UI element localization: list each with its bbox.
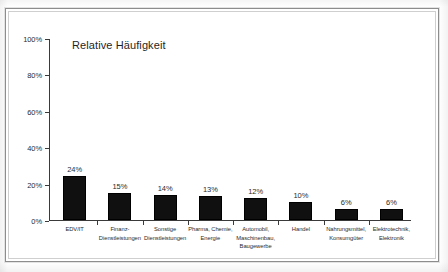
category-label-line: Elektrotechnik, bbox=[369, 225, 414, 234]
bar[interactable] bbox=[289, 202, 312, 220]
y-axis-tick-label: 60% bbox=[27, 107, 42, 116]
y-axis-tick-label: 80% bbox=[27, 71, 42, 80]
bar-group[interactable]: 14% bbox=[154, 195, 177, 220]
bar-value-label: 12% bbox=[248, 187, 263, 196]
x-axis-category-label: EDV/IT bbox=[52, 225, 97, 234]
bar-group[interactable]: 15% bbox=[108, 193, 131, 220]
x-axis-category-label: SonstigeDienstleistungen bbox=[143, 225, 188, 242]
bar-group[interactable]: 24% bbox=[63, 176, 86, 220]
category-label-line: Handel bbox=[278, 225, 323, 234]
bar[interactable] bbox=[108, 193, 131, 220]
x-axis-category-label: Finanz-Dienstleistungen bbox=[97, 225, 142, 242]
bar[interactable] bbox=[244, 198, 267, 220]
category-label-line: Energie bbox=[188, 234, 233, 243]
y-axis-tick bbox=[45, 112, 49, 113]
y-axis-tick-label: 0% bbox=[31, 217, 42, 226]
category-label-line: Konsumgüter bbox=[324, 234, 369, 243]
x-axis-category-label: Nahrungsmittel,Konsumgüter bbox=[324, 225, 369, 242]
y-axis-tick-label: 20% bbox=[27, 180, 42, 189]
category-label-line: Pharma, Chemie, bbox=[188, 225, 233, 234]
plot-area: 0%20%40%60%80%100% 24%15%14%13%12%10%6%6… bbox=[49, 39, 411, 221]
bar[interactable] bbox=[63, 176, 86, 220]
x-axis-category-label: Automobil,Maschinenbau,Baugewerbe bbox=[233, 225, 278, 251]
bar[interactable] bbox=[380, 209, 403, 220]
y-axis-tick-label: 40% bbox=[27, 144, 42, 153]
y-axis-tick-label: 100% bbox=[23, 35, 42, 44]
bar-value-label: 14% bbox=[158, 184, 173, 193]
bar-group[interactable]: 6% bbox=[380, 209, 403, 220]
x-axis-category-label: Handel bbox=[278, 225, 323, 234]
category-label-line: EDV/IT bbox=[52, 225, 97, 234]
category-label-line: Automobil, bbox=[233, 225, 278, 234]
bar[interactable] bbox=[335, 209, 358, 220]
y-axis-line bbox=[49, 39, 50, 221]
bar-value-label: 24% bbox=[67, 165, 82, 174]
bar-value-label: 15% bbox=[113, 182, 128, 191]
bar-group[interactable]: 10% bbox=[289, 202, 312, 220]
figure-frame: Relative Häufigkeit 0%20%40%60%80%100% 2… bbox=[5, 8, 439, 262]
y-axis-tick bbox=[45, 148, 49, 149]
bar-value-label: 6% bbox=[386, 198, 397, 207]
bar-value-label: 6% bbox=[341, 198, 352, 207]
bar-group[interactable]: 6% bbox=[335, 209, 358, 220]
y-axis-tick bbox=[45, 39, 49, 40]
category-label-line: Sonstige bbox=[143, 225, 188, 234]
bar[interactable] bbox=[199, 196, 222, 220]
bar-value-label: 13% bbox=[203, 185, 218, 194]
y-axis-tick bbox=[45, 75, 49, 76]
category-label-line: Elektronik bbox=[369, 234, 414, 243]
category-label-line: Nahrungsmittel, bbox=[324, 225, 369, 234]
bar-value-label: 10% bbox=[294, 191, 309, 200]
x-axis-category-label: Elektrotechnik,Elektronik bbox=[369, 225, 414, 242]
category-label-line: Maschinenbau, bbox=[233, 234, 278, 243]
category-label-line: Baugewerbe bbox=[233, 242, 278, 251]
x-axis-line bbox=[49, 220, 411, 221]
bar[interactable] bbox=[154, 195, 177, 220]
bar-group[interactable]: 13% bbox=[199, 196, 222, 220]
bar-group[interactable]: 12% bbox=[244, 198, 267, 220]
y-axis-tick bbox=[45, 185, 49, 186]
x-axis-category-label: Pharma, Chemie,Energie bbox=[188, 225, 233, 242]
category-label-line: Dienstleistungen bbox=[97, 234, 142, 243]
category-label-line: Finanz- bbox=[97, 225, 142, 234]
y-axis-tick bbox=[45, 221, 49, 222]
category-label-line: Dienstleistungen bbox=[143, 234, 188, 243]
